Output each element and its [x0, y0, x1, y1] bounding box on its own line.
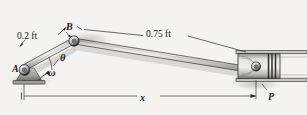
rod-length-label: 0.75 ft — [146, 30, 171, 40]
distance-x-label: x — [140, 93, 145, 103]
point-p-label: P — [268, 92, 274, 102]
dimension-line-x — [22, 80, 257, 100]
piston-icon — [238, 53, 280, 78]
angle-theta-label: θ — [60, 53, 65, 64]
crank-length-label: 0.2 ft — [17, 32, 37, 42]
angular-velocity-label: ω — [48, 68, 56, 79]
point-b-label: B — [66, 22, 73, 32]
point-a-label: A — [12, 64, 19, 74]
pin-joint-a-icon — [19, 65, 30, 76]
slider-crank-diagram — [0, 0, 307, 115]
